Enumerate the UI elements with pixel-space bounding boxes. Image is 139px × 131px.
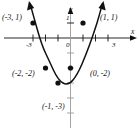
point-label-neg3-1: (-3, 1) bbox=[2, 14, 22, 22]
x-axis-label: x bbox=[131, 28, 134, 36]
data-point-0-neg2 bbox=[68, 65, 73, 70]
x-axis-arrow-icon bbox=[130, 35, 137, 41]
y-tick-label-1: 1 bbox=[66, 15, 70, 22]
point-label-neg1-neg3: (-1, -3) bbox=[42, 103, 65, 111]
origin-label: 0 bbox=[66, 42, 70, 49]
point-label-neg2-neg2: (-2, -2) bbox=[12, 70, 35, 78]
x-tick-label-neg3: -3 bbox=[26, 42, 32, 49]
data-point-neg3-1 bbox=[30, 20, 35, 25]
data-point-neg2-neg2 bbox=[43, 65, 48, 70]
point-label-0-neg2: (0, -2) bbox=[90, 70, 110, 78]
y-axis-label: y bbox=[69, 6, 72, 14]
data-point-neg1-neg3 bbox=[55, 80, 60, 85]
parabola-figure: (-3, 1) (-2, -2) (-1, -3) (0, -2) (1, 1)… bbox=[0, 0, 139, 131]
data-point-1-1 bbox=[80, 20, 85, 25]
x-tick-label-pos3: 3 bbox=[112, 42, 116, 49]
curve-left-arrow-icon bbox=[27, 1, 34, 11]
curve-right-arrow-icon bbox=[99, 1, 106, 11]
point-label-1-1: (1, 1) bbox=[100, 14, 117, 22]
